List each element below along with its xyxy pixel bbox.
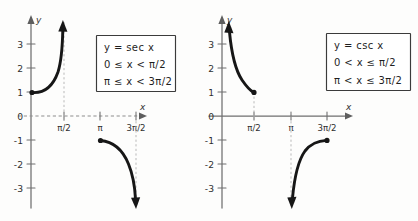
left-ytick-neg3: -3 [14,183,23,194]
sec-branch-1-endpoint-dot [29,90,34,95]
sec-branch-2-curve [101,141,136,200]
left-ytick-3: 3 [17,39,23,50]
sec-box-line-3: π ≤ x < 3π/2 [104,76,172,87]
sec-branch-2-endpoint-dot [98,138,103,143]
left-xtick-pi: π [97,123,102,133]
csc-box-line-3: π < x ≤ 3π/2 [334,75,402,86]
right-ytick-2: 2 [208,63,214,74]
csc-box-line-1: y = csc x [334,40,384,51]
right-panel-cosecant: y x 3 2 1 0 -1 -2 -3 [205,15,411,209]
sec-definition-box: y = sec x 0 ≤ x < π/2 π ≤ x < 3π/2 [97,36,176,92]
left-x-ticks: π/2 π 3π/2 [57,112,145,133]
sec-branch-2-arrowhead [131,197,140,209]
csc-definition-box: y = csc x 0 < x ≤ π/2 π < x ≤ 3π/2 [327,34,411,91]
left-ytick-neg1: -1 [14,135,23,146]
sec-box-line-2: 0 ≤ x < π/2 [104,59,166,70]
csc-branch-2-curve [293,140,327,198]
sec-branch-1-arrowhead [58,20,67,32]
right-x-axis-arrowhead [345,113,353,120]
right-x-axis-label: x [345,102,352,112]
right-ytick-3: 3 [208,39,214,50]
left-y-axis-arrowhead [27,15,34,24]
trig-graph-figure: y x 3 2 1 0 -1 -2 -3 [0,0,418,221]
left-panel-secant: y x 3 2 1 0 -1 -2 -3 [14,15,176,209]
right-xtick-pi-over-2: π/2 [247,123,261,133]
right-ytick-0: 0 [208,111,214,122]
csc-branch-2-arrowhead [287,197,296,209]
csc-branch-2-endpoint-dot [324,138,329,143]
left-ytick-neg2: -2 [14,159,23,170]
right-x-ticks: π/2 π 3π/2 [247,112,336,133]
right-ytick-neg1: -1 [205,135,214,146]
left-y-axis-label: y [35,15,42,25]
right-y-axis-arrowhead [218,15,225,24]
sec-branch-1-curve [32,30,63,93]
right-ytick-neg3: -3 [205,183,214,194]
right-ytick-1: 1 [208,87,214,98]
csc-branch-1-curve [230,32,254,92]
left-x-axis-label: x [139,102,146,112]
sec-box-line-1: y = sec x [104,42,154,53]
csc-box-line-2: 0 < x ≤ π/2 [334,57,396,68]
right-xtick-3pi-over-2: 3π/2 [317,123,336,133]
left-x-axis-arrowhead [139,113,147,120]
left-xtick-pi-over-2: π/2 [57,123,71,133]
csc-branch-1-endpoint-dot [251,90,256,95]
left-ytick-2: 2 [17,63,23,74]
sketch-canvas: y x 3 2 1 0 -1 -2 -3 [0,0,418,221]
left-ytick-0: 0 [17,111,23,122]
right-ytick-neg2: -2 [205,159,214,170]
left-ytick-1: 1 [17,87,23,98]
